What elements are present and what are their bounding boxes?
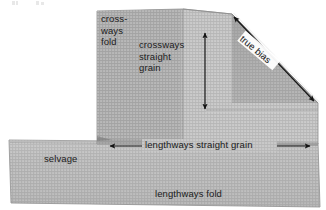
fabric-diagram	[0, 0, 326, 210]
lengthways-label-mask-weave	[142, 139, 277, 152]
crossways-fold-panel	[97, 9, 183, 144]
figure-canvas: cross- ways fold crossways straight grai…	[0, 0, 326, 210]
